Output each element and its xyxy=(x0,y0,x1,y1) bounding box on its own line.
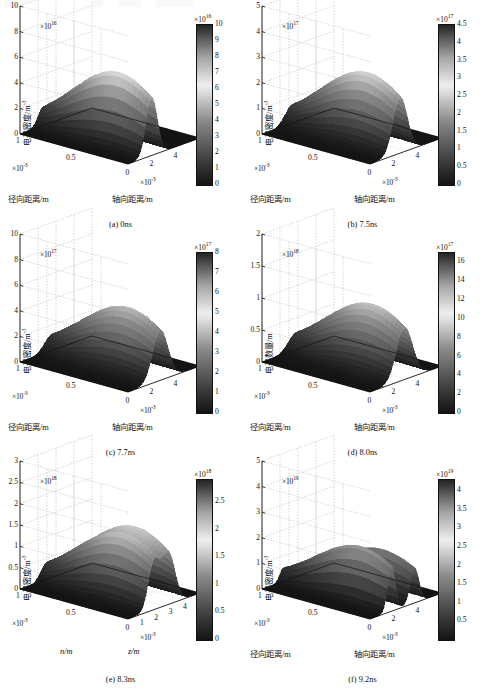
colorbar-tick-c-2: 2 xyxy=(215,367,219,376)
z-tick-c-3: 6 xyxy=(4,280,18,289)
colorbar-tick-b-9: 4.5 xyxy=(457,19,467,28)
colorbar-tick-b-7: 3.5 xyxy=(457,55,467,64)
colorbar-exponent-f: ×1019 xyxy=(436,468,453,479)
z-tick-f-5: 5 xyxy=(246,456,260,465)
colorbar-tick-f-4: 2.5 xyxy=(457,541,467,550)
z-axis-exponent-d: ×1018 xyxy=(282,248,298,259)
axial-axis-exponent-b: ×10-3 xyxy=(382,176,397,187)
colorbar-tick-b-3: 1.5 xyxy=(457,126,467,135)
colorbar-tick-a-8: 8 xyxy=(215,51,219,60)
plot-area-c: 024681010.50246×1017×10-3×10-3电子密度/m-3径向… xyxy=(0,232,193,442)
colorbar-tick-f-3: 2 xyxy=(457,560,461,569)
z-tick-b-4: 4 xyxy=(246,27,260,36)
colorbar-tick-e-4: 2 xyxy=(215,524,219,533)
plot-area-e: 00.511.522.5310.5012345×1018×10-3×10-3电子… xyxy=(0,459,193,669)
colorbar-tick-c-1: 1 xyxy=(215,387,219,396)
radial-tick-d-1: 0.5 xyxy=(308,381,318,390)
z-axis-exponent-e: ×1018 xyxy=(40,475,56,486)
z-tick-e-2: 1 xyxy=(4,541,18,550)
colorbar-tick-e-1: 0.5 xyxy=(215,606,225,615)
panel-caption-e: (e) 8.3ns xyxy=(0,675,241,684)
colorbar-tick-a-2: 2 xyxy=(215,147,219,156)
axial-tick-f-1: 2 xyxy=(392,614,396,623)
colorbar-tick-c-3: 3 xyxy=(215,347,219,356)
colorbar-exponent-d: ×1017 xyxy=(436,241,453,252)
colorbar-tick-c-0: 0 xyxy=(215,407,219,416)
z-tick-c-2: 4 xyxy=(4,306,18,315)
z-tick-d-1: 0.5 xyxy=(246,325,260,334)
panel-caption-a: (a) 0ns xyxy=(0,220,241,229)
colorbar-gradient-b xyxy=(438,24,455,186)
colorbar-tick-d-5: 10 xyxy=(457,313,465,322)
colorbar-tick-b-2: 1 xyxy=(457,143,461,152)
axial-tick-e-1: 1 xyxy=(140,618,144,627)
z-tick-e-5: 2.5 xyxy=(4,477,18,486)
z-axis-label-d: 电子数量/m xyxy=(262,333,274,374)
axial-tick-e-4: 4 xyxy=(183,602,187,611)
colorbar-tick-a-0: 0 xyxy=(215,179,219,188)
radial-tick-c-1: 0.5 xyxy=(66,381,76,390)
colorbar-tick-b-8: 4 xyxy=(457,37,461,46)
axial-tick-b-1: 2 xyxy=(392,159,396,168)
colorbar-tick-d-1: 2 xyxy=(457,388,461,397)
radial-tick-e-1: 0.5 xyxy=(66,608,76,617)
panel-f: 01234510.50246×1019×10-3×10-3电子密度/m-3径向距… xyxy=(242,459,483,691)
axial-axis-label-c: 轴向距离/m xyxy=(112,420,153,432)
colorbar-tick-f-2: 1.5 xyxy=(457,578,467,587)
panel-caption-b: (b) 7.5ns xyxy=(242,220,483,229)
radial-axis-exponent-c: ×10-3 xyxy=(12,390,27,401)
z-axis-exponent-f: ×1019 xyxy=(282,475,298,486)
plot-area-b: 01234510.50246×1017×10-3×10-3电子密度/m-3径向距… xyxy=(242,4,435,214)
radial-axis-label-f: 径向距离/m xyxy=(250,647,291,659)
colorbar-tick-f-6: 3.5 xyxy=(457,504,467,513)
colorbar-gradient-a xyxy=(196,24,213,186)
z-axis-label-b: 电子密度/m-3 xyxy=(262,101,274,147)
panel-b: 01234510.50246×1017×10-3×10-3电子密度/m-3径向距… xyxy=(242,4,483,236)
radial-axis-label-a: 径向距离/m xyxy=(8,192,49,204)
colorbar-tick-f-5: 3 xyxy=(457,522,461,531)
colorbar-tick-f-1: 1 xyxy=(457,597,461,606)
axial-axis-label-e: z/m xyxy=(128,647,140,656)
axial-tick-e-3: 3 xyxy=(169,607,173,616)
axial-axis-exponent-f: ×10-3 xyxy=(382,631,397,642)
colorbar-tick-a-9: 9 xyxy=(215,35,219,44)
colorbar-tick-d-2: 4 xyxy=(457,369,461,378)
z-tick-d-4: 2 xyxy=(246,229,260,238)
z-tick-a-2: 4 xyxy=(4,78,18,87)
z-tick-c-5: 10 xyxy=(4,229,18,238)
colorbar-tick-c-6: 6 xyxy=(215,287,219,296)
axial-axis-exponent-c: ×10-3 xyxy=(140,404,155,415)
z-axis-label-e: 电子密度/m-3 xyxy=(20,556,32,602)
z-tick-f-1: 1 xyxy=(246,558,260,567)
axial-axis-label-d: 轴向距离/m xyxy=(354,420,395,432)
radial-axis-label-b: 径向距离/m xyxy=(250,192,291,204)
axial-axis-exponent-d: ×10-3 xyxy=(382,404,397,415)
axial-tick-a-2: 4 xyxy=(174,151,178,160)
axial-tick-c-2: 4 xyxy=(174,379,178,388)
axial-tick-b-2: 4 xyxy=(416,151,420,160)
figure-grid: 024681010.50246×1016×10-3×10-3电子密度/m-3径向… xyxy=(0,0,483,696)
z-tick-e-1: 0.5 xyxy=(4,563,18,572)
radial-axis-exponent-e: ×10-3 xyxy=(12,617,27,628)
radial-tick-b-1: 0.5 xyxy=(308,153,318,162)
radial-tick-f-1: 0.5 xyxy=(308,608,318,617)
z-tick-e-3: 1.5 xyxy=(4,520,18,529)
radial-axis-label-c: 径向距离/m xyxy=(8,420,49,432)
colorbar-tick-f-0: 0.5 xyxy=(457,615,467,624)
z-tick-a-5: 10 xyxy=(4,1,18,10)
z-tick-a-1: 2 xyxy=(4,103,18,112)
colorbar-tick-d-6: 12 xyxy=(457,294,465,303)
radial-axis-label-d: 径向距离/m xyxy=(250,420,291,432)
axial-tick-d-0: 0 xyxy=(368,396,372,405)
axial-axis-label-f: 轴向距离/m xyxy=(354,647,395,659)
colorbar-gradient-e xyxy=(196,479,213,641)
colorbar-tick-e-2: 1 xyxy=(215,579,219,588)
axial-axis-exponent-a: ×10-3 xyxy=(140,176,155,187)
axial-tick-e-2: 2 xyxy=(154,613,158,622)
axial-axis-label-a: 轴向距离/m xyxy=(112,192,153,204)
plot-area-f: 01234510.50246×1019×10-3×10-3电子密度/m-3径向距… xyxy=(242,459,435,669)
colorbar-tick-d-8: 16 xyxy=(457,256,465,265)
colorbar-tick-c-7: 7 xyxy=(215,267,219,276)
radial-axis-exponent-f: ×10-3 xyxy=(254,617,269,628)
panel-d: 00.511.5210.50246×1018×10-3×10-3电子数量/m径向… xyxy=(242,232,483,464)
